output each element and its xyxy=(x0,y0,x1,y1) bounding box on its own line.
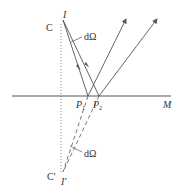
label-C: C xyxy=(46,22,53,33)
label-P2: P2 xyxy=(92,99,102,111)
label-P1: P1 xyxy=(75,99,85,111)
reflection-diagram: C I dΩ M P1 P2 dΩ C' I' xyxy=(0,0,183,193)
label-dOmega-top: dΩ xyxy=(84,31,96,42)
label-dOmega-bottom: dΩ xyxy=(84,148,96,159)
label-M: M xyxy=(162,99,172,110)
label-I-prime: I' xyxy=(60,176,67,187)
label-I: I xyxy=(62,9,67,20)
reflected-ray-2 xyxy=(99,19,157,96)
solid-angle-leader-bottom xyxy=(70,146,82,152)
label-C-prime: C' xyxy=(47,171,56,182)
arrow-icon xyxy=(76,64,81,70)
